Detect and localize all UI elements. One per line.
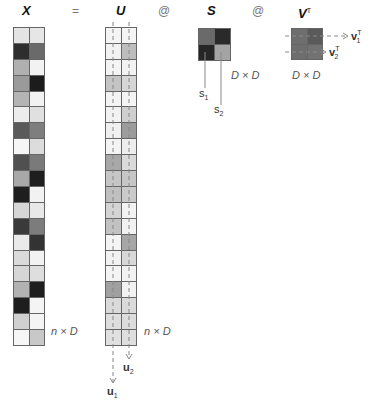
x-cell-12-1	[30, 219, 45, 234]
x-cell-12-0	[14, 219, 29, 234]
u-matrix	[105, 27, 137, 346]
v2-label: vT2	[329, 45, 338, 60]
annotation-overlay	[0, 0, 377, 406]
vt-matrix	[291, 28, 323, 60]
u-cell-7-1	[122, 139, 137, 154]
x-cell-10-1	[30, 187, 45, 202]
x-cell-19-0	[14, 330, 29, 345]
u-cell-12-1	[122, 219, 137, 234]
s-cell-0-1	[215, 29, 230, 44]
s-matrix	[198, 28, 231, 61]
s-cell-0-0	[199, 29, 214, 44]
x-cell-16-1	[30, 282, 45, 297]
s-cell-1-1	[215, 45, 230, 60]
x-cell-3-1	[30, 76, 45, 91]
u-cell-13-1	[122, 235, 137, 250]
u-cell-2-0	[106, 60, 121, 75]
u-cell-0-1	[122, 28, 137, 43]
x-cell-6-0	[14, 123, 29, 138]
x-cell-18-1	[30, 314, 45, 329]
u-cell-15-0	[106, 266, 121, 281]
u-cell-2-1	[122, 60, 137, 75]
u-cell-18-0	[106, 314, 121, 329]
x-cell-13-0	[14, 235, 29, 250]
x-cell-5-1	[30, 107, 45, 122]
u-cell-19-0	[106, 330, 121, 345]
x-cell-19-1	[30, 330, 45, 345]
u-cell-7-0	[106, 139, 121, 154]
u-matrix-label: U	[116, 3, 125, 19]
x-cell-9-0	[14, 171, 29, 186]
x-cell-2-0	[14, 60, 29, 75]
u-cell-5-0	[106, 107, 121, 122]
u-cell-18-1	[122, 314, 137, 329]
u-cell-17-1	[122, 298, 137, 313]
x-cell-11-0	[14, 203, 29, 218]
u-cell-13-0	[106, 235, 121, 250]
u-cell-9-0	[106, 171, 121, 186]
vt-matrix-label: VT	[298, 3, 311, 22]
x-cell-0-0	[14, 28, 29, 43]
x-cell-11-1	[30, 203, 45, 218]
u-cell-14-0	[106, 251, 121, 266]
x-cell-1-0	[14, 44, 29, 59]
s-matrix-label: S	[207, 3, 216, 19]
vt-dimension-label: D × D	[292, 69, 320, 81]
x-cell-18-0	[14, 314, 29, 329]
vt-cell-0-1	[308, 29, 323, 44]
u-cell-4-0	[106, 92, 121, 107]
vt-cell-1-1	[308, 45, 323, 60]
u-cell-10-1	[122, 187, 137, 202]
x-cell-6-1	[30, 123, 45, 138]
x-matrix-label: X	[22, 3, 31, 19]
x-cell-7-1	[30, 139, 45, 154]
x-cell-16-0	[14, 282, 29, 297]
x-cell-4-1	[30, 92, 45, 107]
x-cell-14-1	[30, 251, 45, 266]
s1-label: s1	[199, 87, 208, 101]
x-cell-4-0	[14, 92, 29, 107]
u-cell-10-0	[106, 187, 121, 202]
v1-label: vT1	[351, 29, 360, 44]
u2-label: u2	[123, 361, 134, 375]
u-cell-6-1	[122, 123, 137, 138]
u-cell-16-1	[122, 282, 137, 297]
u-cell-5-1	[122, 107, 137, 122]
u-cell-9-1	[122, 171, 137, 186]
vt-cell-0-0	[292, 29, 307, 44]
x-cell-13-1	[30, 235, 45, 250]
x-cell-8-1	[30, 155, 45, 170]
u-cell-0-0	[106, 28, 121, 43]
x-cell-8-0	[14, 155, 29, 170]
u-cell-8-0	[106, 155, 121, 170]
x-cell-0-1	[30, 28, 45, 43]
x-cell-17-1	[30, 298, 45, 313]
equals-sign: =	[72, 3, 79, 19]
u-cell-8-1	[122, 155, 137, 170]
matmul-operator-1: @	[158, 3, 170, 19]
x-cell-17-0	[14, 298, 29, 313]
u1-label: u1	[107, 385, 118, 399]
x-cell-14-0	[14, 251, 29, 266]
u-cell-19-1	[122, 330, 137, 345]
u-cell-11-1	[122, 203, 137, 218]
u-cell-15-1	[122, 266, 137, 281]
u-cell-11-0	[106, 203, 121, 218]
s-cell-1-0	[199, 45, 214, 60]
x-cell-1-1	[30, 44, 45, 59]
x-cell-7-0	[14, 139, 29, 154]
matmul-operator-2: @	[252, 3, 264, 19]
u-cell-6-0	[106, 123, 121, 138]
s-dimension-label: D × D	[231, 69, 259, 81]
x-cell-5-0	[14, 107, 29, 122]
u-cell-17-0	[106, 298, 121, 313]
x-cell-15-1	[30, 266, 45, 281]
x-dimension-label: n × D	[51, 325, 78, 337]
u-cell-12-0	[106, 219, 121, 234]
x-cell-2-1	[30, 60, 45, 75]
u-cell-4-1	[122, 92, 137, 107]
u-cell-16-0	[106, 282, 121, 297]
vt-cell-1-0	[292, 45, 307, 60]
u-cell-3-0	[106, 76, 121, 91]
s2-label: s2	[214, 103, 223, 117]
